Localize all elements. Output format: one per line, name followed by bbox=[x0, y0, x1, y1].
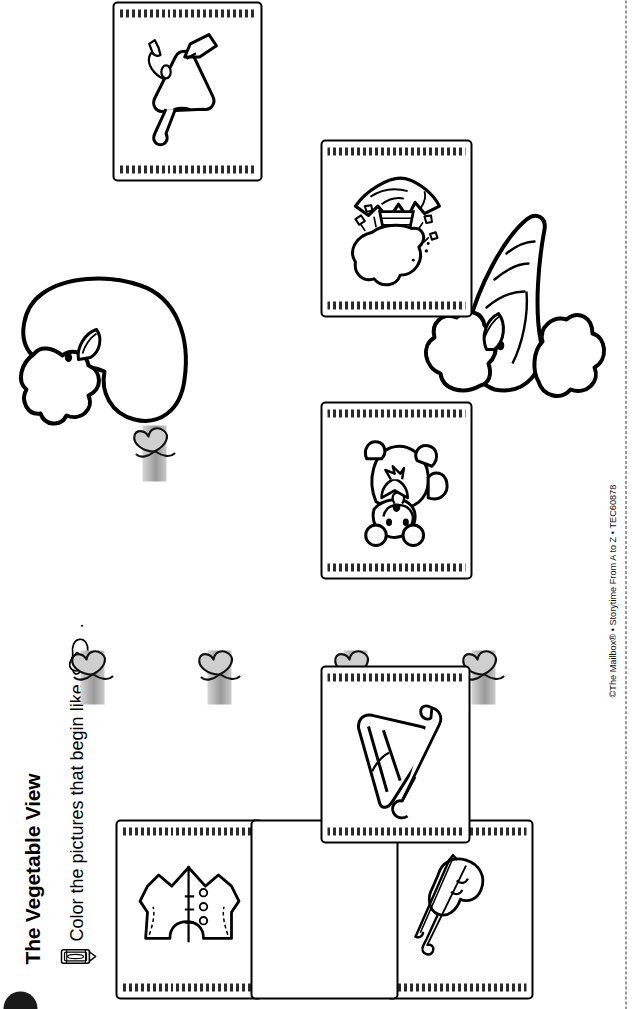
instruction-text: Color the pictures that begin like bbox=[67, 684, 85, 941]
frame-vest[interactable] bbox=[115, 819, 263, 999]
film-sprockets-icon bbox=[392, 983, 526, 991]
film-sprockets-icon bbox=[122, 827, 256, 835]
worksheet-page: The Vegetable View Color the pictures th… bbox=[0, 0, 637, 1009]
film-sprockets-icon bbox=[327, 409, 465, 417]
frame-violin[interactable] bbox=[385, 819, 533, 999]
volcano-icon bbox=[326, 159, 466, 297]
film-sprockets-icon bbox=[327, 673, 463, 681]
film-sprockets-icon bbox=[327, 563, 465, 571]
cut-line bbox=[625, 0, 626, 1009]
frame-pepper-hidden bbox=[250, 819, 398, 999]
film-sprockets-icon bbox=[122, 983, 256, 991]
frame-vacuum[interactable] bbox=[112, 1, 262, 181]
crayon-icon bbox=[56, 948, 96, 964]
frame-bear[interactable] bbox=[320, 401, 472, 579]
violin-icon bbox=[391, 839, 527, 979]
copyright-text: ©The Mailbox® • Storytime From A to Z • … bbox=[607, 484, 617, 697]
vacuum-icon bbox=[118, 21, 256, 161]
film-sprockets-icon bbox=[327, 147, 465, 155]
film-sprockets-icon bbox=[119, 165, 255, 173]
leaf-cluster-icon bbox=[60, 640, 124, 686]
page-title: The Vegetable View bbox=[20, 773, 44, 964]
frame-volcano[interactable] bbox=[320, 139, 472, 317]
instruction-period: . bbox=[67, 623, 85, 628]
veg-eggplant bbox=[12, 261, 232, 433]
page-number-badge bbox=[3, 991, 37, 1009]
film-sprockets-icon bbox=[119, 9, 255, 17]
vest-icon bbox=[121, 839, 257, 979]
film-sprockets-icon bbox=[327, 827, 463, 835]
worksheet-sheet: The Vegetable View Color the pictures th… bbox=[0, 0, 637, 1009]
boat-icon bbox=[326, 685, 464, 823]
bear-icon bbox=[326, 421, 466, 559]
frame-boat[interactable] bbox=[320, 665, 470, 843]
film-sprockets-icon bbox=[327, 301, 465, 309]
leaf-cluster-icon bbox=[187, 640, 251, 686]
